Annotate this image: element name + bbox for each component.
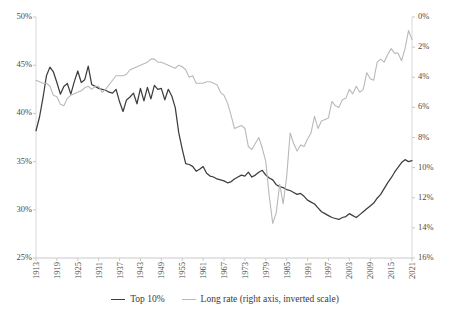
x-axis-tick-text: 2021 <box>407 262 417 279</box>
chart-legend: Top 10% Long rate (right axis, inverted … <box>0 291 450 307</box>
x-axis-tick-text: 1979 <box>261 262 271 279</box>
x-axis-tick-text: 1913 <box>31 262 41 279</box>
x-axis-tick-text: 1925 <box>73 262 83 279</box>
x-axis-tick-text: 2003 <box>344 262 354 279</box>
x-axis-tick-text: 2015 <box>386 262 396 279</box>
x-axis-ticks: 1913191919251931193719431949195519611967… <box>0 0 450 320</box>
legend-swatch-top10 <box>111 299 125 300</box>
x-axis-tick-text: 1991 <box>303 262 313 279</box>
legend-label-top10: Top 10% <box>130 294 164 304</box>
legend-swatch-long-rate <box>182 299 196 300</box>
x-axis-tick-text: 2009 <box>365 262 375 279</box>
x-axis-tick-text: 1961 <box>198 262 208 279</box>
legend-item-long-rate: Long rate (right axis, inverted scale) <box>182 294 339 304</box>
x-axis-tick-text: 1967 <box>219 262 229 279</box>
chart-container: 25%30%35%40%45%50% 0%2%4%6%8%10%12%14%16… <box>0 0 450 320</box>
legend-item-top10: Top 10% <box>111 294 164 304</box>
legend-label-long-rate: Long rate (right axis, inverted scale) <box>201 294 339 304</box>
x-axis-tick-text: 1943 <box>135 262 145 279</box>
x-axis-tick-text: 1997 <box>323 262 333 279</box>
x-axis-tick-text: 1919 <box>52 262 62 279</box>
x-axis-tick-text: 1949 <box>156 262 166 279</box>
x-axis-tick-text: 1937 <box>115 262 125 279</box>
x-axis-tick-text: 1973 <box>240 262 250 279</box>
x-axis-tick-text: 1931 <box>94 262 104 279</box>
x-axis-tick-text: 1955 <box>177 262 187 279</box>
x-axis-tick-text: 1985 <box>282 262 292 279</box>
